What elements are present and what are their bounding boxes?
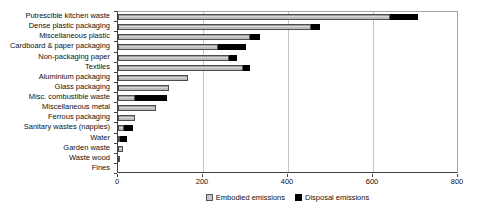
embodied-swatch-icon: [206, 194, 213, 201]
x-tick-label: 800: [442, 177, 472, 186]
bar-row: [118, 156, 120, 162]
y-tick-mark: [114, 122, 117, 123]
bar-row: [118, 146, 123, 152]
x-tick-label: 200: [187, 177, 217, 186]
bar-chart-figure: Putrescible kitchen wasteDense plastic p…: [0, 0, 486, 209]
category-label: Ferrous packaging: [0, 112, 113, 122]
category-label: Putrescible kitchen waste: [0, 11, 113, 21]
disposal-bar-segment: [243, 65, 249, 71]
embodied-bar-segment: [118, 95, 135, 101]
y-tick-mark: [114, 21, 117, 22]
embodied-bar-segment: [118, 85, 169, 91]
y-tick-mark: [114, 31, 117, 32]
y-tick-mark: [114, 143, 117, 144]
category-label: Miscellaneous metal: [0, 102, 113, 112]
bar-row: [118, 65, 250, 71]
category-label: Misc. combustible waste: [0, 92, 113, 102]
y-tick-mark: [114, 112, 117, 113]
y-tick-mark: [114, 72, 117, 73]
embodied-bar-segment: [118, 105, 156, 111]
disposal-bar-segment: [229, 55, 238, 61]
category-label: Dense plastic packaging: [0, 21, 113, 31]
legend-item-embodied: Embodied emissions: [206, 193, 285, 202]
category-label: Textiles: [0, 62, 113, 72]
y-tick-mark: [114, 82, 117, 83]
legend-item-disposal: Disposal emissions: [295, 193, 369, 202]
category-label: Fines: [0, 163, 113, 173]
y-tick-mark: [114, 92, 117, 93]
category-label: Glass packaging: [0, 82, 113, 92]
embodied-bar-segment: [118, 146, 123, 152]
bar-row: [118, 105, 156, 111]
y-tick-mark: [114, 163, 117, 164]
y-tick-mark: [114, 11, 117, 12]
disposal-bar-segment: [390, 14, 418, 20]
legend: Embodied emissions Disposal emissions: [117, 191, 458, 203]
plot-area: [117, 11, 458, 173]
bar-row: [118, 136, 127, 142]
category-label: Garden waste: [0, 143, 113, 153]
legend-label-embodied: Embodied emissions: [216, 193, 285, 202]
embodied-bar-segment: [118, 115, 135, 121]
embodied-bar-segment: [118, 34, 250, 40]
embodied-bar-segment: [118, 24, 311, 30]
gridline: [288, 12, 289, 172]
category-label: Non-packaging paper: [0, 52, 113, 62]
x-tick-label: 0: [102, 177, 132, 186]
x-tick-label: 600: [357, 177, 387, 186]
legend-label-disposal: Disposal emissions: [305, 193, 369, 202]
disposal-bar-segment: [124, 125, 133, 131]
bar-row: [118, 115, 135, 121]
embodied-bar-segment: [118, 55, 229, 61]
category-label: Sanitary wastes (nappies): [0, 122, 113, 132]
embodied-bar-segment: [118, 75, 188, 81]
category-label: Cardboard & paper packaging: [0, 41, 113, 51]
disposal-swatch-icon: [295, 194, 302, 201]
bar-row: [118, 85, 169, 91]
bar-row: [118, 24, 320, 30]
category-axis-labels: Putrescible kitchen wasteDense plastic p…: [0, 11, 113, 173]
bar-row: [118, 34, 260, 40]
category-label: Aluminium packaging: [0, 72, 113, 82]
bar-row: [118, 125, 133, 131]
category-label: Water: [0, 133, 113, 143]
embodied-bar-segment: [118, 44, 218, 50]
gridline: [373, 12, 374, 172]
x-tick-label: 400: [272, 177, 302, 186]
disposal-bar-segment: [250, 34, 261, 40]
y-tick-mark: [114, 173, 117, 174]
embodied-bar-segment: [118, 65, 243, 71]
disposal-bar-segment: [120, 136, 126, 142]
bar-row: [118, 75, 188, 81]
y-tick-mark: [114, 153, 117, 154]
y-tick-mark: [114, 62, 117, 63]
y-tick-mark: [114, 133, 117, 134]
disposal-bar-segment: [311, 24, 320, 30]
category-label: Waste wood: [0, 153, 113, 163]
embodied-bar-segment: [118, 14, 390, 20]
y-tick-mark: [114, 41, 117, 42]
bar-row: [118, 14, 418, 20]
y-tick-mark: [114, 102, 117, 103]
y-tick-mark: [114, 52, 117, 53]
bar-row: [118, 95, 167, 101]
bar-row: [118, 55, 237, 61]
category-label: Miscellaneous plastic: [0, 31, 113, 41]
disposal-bar-segment: [135, 95, 167, 101]
embodied-bar-segment: [118, 156, 120, 162]
bar-row: [118, 44, 246, 50]
disposal-bar-segment: [218, 44, 246, 50]
